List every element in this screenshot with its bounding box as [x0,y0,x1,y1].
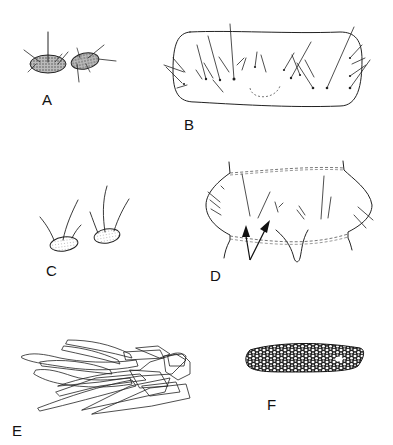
panel-a-drawing [0,0,140,110]
panel-a: A [0,0,140,110]
panel-d: D [180,140,393,300]
arrow-icon [242,220,270,260]
panel-f-drawing [220,300,393,445]
panel-label-c: C [46,263,57,278]
panel-c-drawing [0,140,180,300]
panel-label-d: D [210,268,221,283]
panel-e-drawing [0,300,220,445]
panel-f: F [220,300,393,445]
panel-b: B [140,0,393,140]
panel-label-a: A [42,92,52,107]
panel-b-drawing [140,0,393,140]
panel-e: E [0,300,220,445]
panel-c: C [0,140,180,300]
panel-label-b: B [184,117,194,132]
panel-label-e: E [12,423,22,438]
panel-label-f: F [267,397,276,412]
